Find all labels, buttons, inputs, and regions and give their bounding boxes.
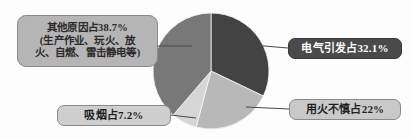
callout-other-causes[interactable]: 其他原因占38.7% (生产作业、玩火、放 火、自燃、雷击静电等) (17, 15, 158, 67)
callout-other-line1: 其他原因占38.7% (47, 22, 128, 34)
callout-other-line3: 火、自燃、雷击静电等) (35, 47, 141, 59)
callout-smoking-label: 吸烟占7.2% (84, 109, 143, 122)
callout-other-line2: (生产作业、玩火、放 (40, 35, 136, 47)
callout-careless-fire-label: 用火不慎占22% (306, 103, 385, 116)
callout-smoking[interactable]: 吸烟占7.2% (57, 105, 171, 126)
callout-careless-fire[interactable]: 用火不慎占22% (289, 99, 401, 120)
callout-electrical-label: 电气引发占32.1% (301, 42, 388, 55)
callout-electrical[interactable]: 电气引发占32.1% (288, 38, 402, 59)
pie-chart-figure: 其他原因占38.7% (生产作业、玩火、放 火、自燃、雷击静电等) 电气引发占3… (0, 0, 411, 138)
